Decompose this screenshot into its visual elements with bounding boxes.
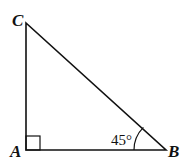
angle-label-b: 45° [111,132,132,148]
right-angle-marker [26,136,40,150]
triangle-abc [26,23,166,150]
vertex-label-a: A [9,142,21,161]
vertex-label-c: C [12,11,24,30]
angle-arc-b [134,127,143,150]
vertex-label-b: B [167,142,179,161]
triangle-diagram: 45° C A B [0,0,189,168]
